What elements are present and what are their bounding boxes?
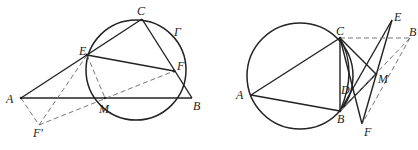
label-M-left: M [98,102,110,116]
label-F-left: F [176,59,185,73]
label-gamma: Γ [173,25,182,39]
right-figure: A B C D E B M F [235,10,417,139]
dashed-F'E [39,55,87,125]
segment-CM [340,38,376,74]
dashed-AF' [21,98,39,125]
label-E-right: E [393,10,402,24]
label-Bprime-right: B [409,25,417,39]
label-C-right: C [336,24,345,38]
label-A-left: A [5,92,14,106]
geometry-figures: A B C E F M F' Γ A B C D E B [0,0,418,150]
left-figure: A B C E F M F' Γ [5,4,201,140]
label-A-right: A [235,88,244,102]
segment-AC-right [251,38,340,95]
label-F-right: F [363,125,372,139]
label-B-right: B [337,112,345,126]
dashed-EM [87,55,105,98]
label-C-left: C [137,4,146,18]
label-M-right: M [377,72,389,86]
label-D-right: D [340,83,350,97]
label-E-left: E [78,44,87,58]
label-Fprime-left: F' [32,126,43,140]
segment-EF [87,55,174,71]
label-B-left: B [193,99,201,113]
segment-BE [340,20,392,111]
segment-AC [21,19,142,98]
segment-AB-right [251,95,340,111]
